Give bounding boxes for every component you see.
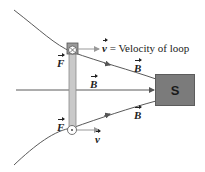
force-top-label: F — [57, 58, 64, 69]
vector-v-label: v — [102, 43, 107, 54]
field-middle-label: B — [90, 79, 97, 90]
vector-b-top: B — [134, 63, 141, 74]
velocity-bottom-label: v — [95, 134, 100, 145]
vector-f-top: F — [57, 58, 64, 69]
force-bottom-label: F — [57, 122, 64, 133]
vector-v-bottom: v — [95, 134, 100, 145]
vector-b-bottom: B — [134, 110, 141, 121]
magnetic-induction-diagram: S v = Velocity of loop F B B B F v — [0, 0, 205, 172]
magnet-label: S — [171, 83, 180, 98]
vector-b-middle: B — [90, 79, 97, 90]
vector-f-bottom: F — [57, 122, 64, 133]
velocity-description: = Velocity of loop — [110, 42, 190, 54]
velocity-label: v = Velocity of loop — [102, 43, 189, 54]
field-bottom-label: B — [134, 110, 141, 121]
magnet-south-pole: S — [155, 74, 195, 106]
field-top-label: B — [134, 63, 141, 74]
